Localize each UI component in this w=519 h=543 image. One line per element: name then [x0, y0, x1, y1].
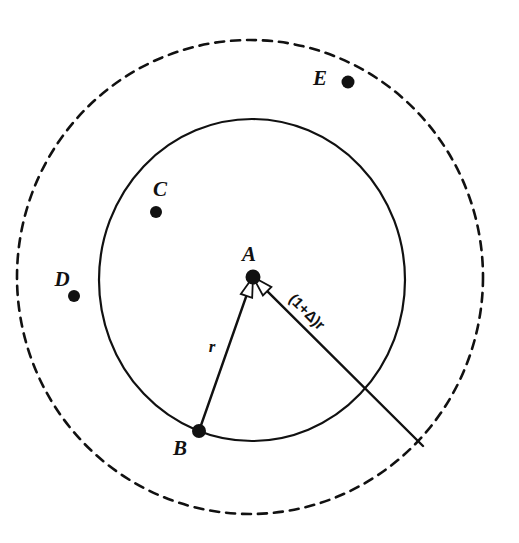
- point-labels-group: ABCDE: [53, 66, 327, 460]
- point-marker-d: [68, 290, 80, 302]
- diagram-canvas: ABCDE r (1+Δ)r: [0, 0, 519, 543]
- point-label-c: C: [153, 177, 168, 201]
- point-label-d: D: [53, 267, 69, 291]
- extended-radius-segment: [253, 277, 423, 446]
- point-marker-e: [342, 76, 355, 89]
- extended-radius-label: (1+Δ)r: [286, 290, 329, 333]
- point-label-e: E: [312, 66, 327, 90]
- point-label-a: A: [240, 242, 256, 266]
- diagram-svg: ABCDE r (1+Δ)r: [0, 0, 519, 543]
- point-marker-b: [192, 424, 206, 438]
- point-label-b: B: [172, 436, 187, 460]
- radius-label-r: r: [209, 337, 216, 356]
- point-marker-c: [150, 206, 162, 218]
- point-markers-group: [68, 76, 355, 439]
- radius-segment-AB: [199, 277, 253, 431]
- point-marker-a: [246, 270, 261, 285]
